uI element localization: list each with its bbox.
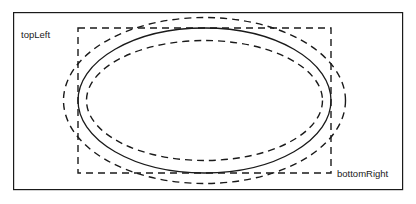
bottom-right-label: bottomRight: [337, 168, 389, 179]
top-left-label: topLeft: [21, 29, 50, 40]
ellipse-bounds-diagram: topLeft bottomRight: [0, 0, 416, 204]
diagram-canvas: topLeft bottomRight: [0, 0, 416, 204]
